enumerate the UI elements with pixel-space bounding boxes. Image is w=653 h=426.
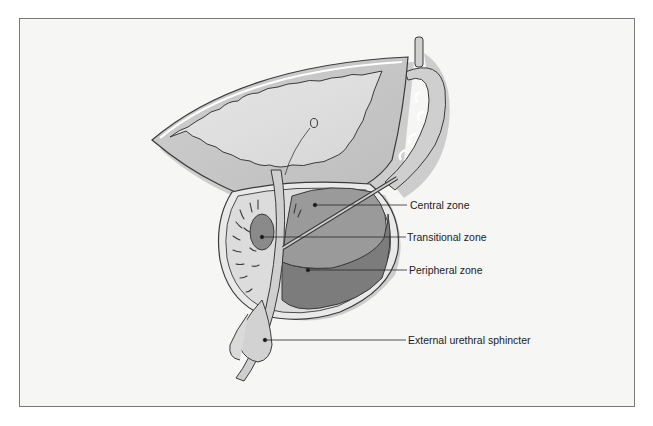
transitional-zone [250, 214, 274, 250]
label-peripheral-zone: Peripheral zone [409, 264, 483, 276]
prostate-anatomy-illustration [0, 0, 653, 426]
label-external-urethral-sphincter: External urethral sphincter [408, 334, 531, 346]
label-central-zone: Central zone [410, 199, 470, 211]
label-transitional-zone: Transitional zone [407, 231, 487, 243]
